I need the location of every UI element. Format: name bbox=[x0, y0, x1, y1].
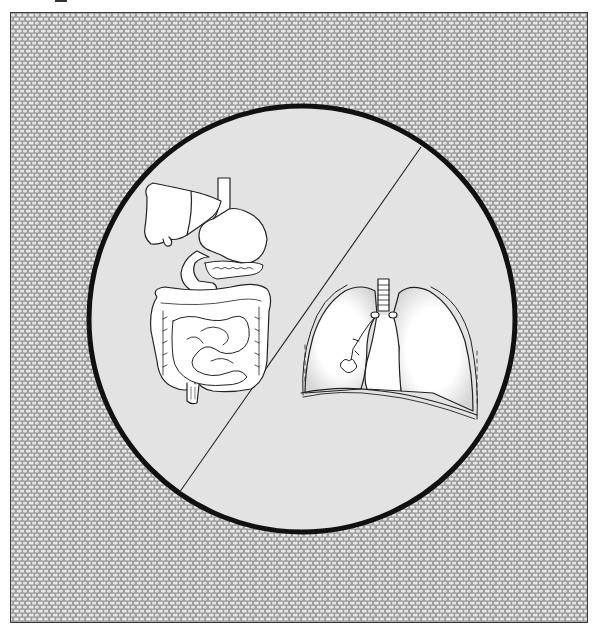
illustration-frame: Digestive system Respiratory system bbox=[10, 12, 588, 623]
illustration-canvas bbox=[11, 13, 588, 623]
rectum-icon bbox=[187, 383, 199, 404]
crop-mark bbox=[55, 0, 67, 2]
